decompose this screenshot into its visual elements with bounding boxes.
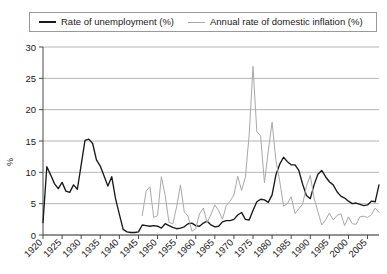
unemployment-inflation-chart: Rate of unemployment (%) Annual rate of …	[0, 0, 387, 274]
legend-label-inflation: Annual rate of domestic inflation (%)	[210, 17, 363, 27]
x-tick-label: 1995	[308, 237, 331, 260]
x-tick-label: 1975	[232, 237, 255, 260]
x-tick-label: 1935	[79, 237, 102, 260]
series-line-unemployment	[43, 139, 379, 232]
y-tick-label: 5	[31, 198, 36, 209]
x-tick-label: 2005	[346, 237, 369, 260]
x-tick-label: 1925	[41, 237, 64, 260]
gridlines	[43, 47, 379, 235]
x-tick-label: 1955	[155, 237, 178, 260]
chart-legend: Rate of unemployment (%) Annual rate of …	[29, 12, 377, 32]
x-tick-label: 1985	[270, 237, 293, 260]
x-axis-ticks: 1920192519301935194019451950195519601965…	[22, 235, 379, 259]
x-tick-label: 1940	[98, 237, 121, 260]
x-tick-label: 1920	[22, 237, 45, 260]
x-tick-label: 1980	[251, 237, 274, 260]
x-tick-label: 1970	[213, 237, 236, 260]
legend-item-inflation: Annual rate of domestic inflation (%)	[188, 17, 363, 27]
data-series	[43, 66, 379, 232]
y-tick-label: 15	[25, 136, 36, 147]
plot-area: % 051015202530 1920192519301935194019451…	[0, 36, 387, 274]
x-tick-label: 1990	[289, 237, 312, 260]
legend-item-unemployment: Rate of unemployment (%)	[39, 17, 174, 27]
legend-label-unemployment: Rate of unemployment (%)	[61, 17, 174, 27]
y-tick-label: 10	[25, 167, 36, 178]
x-tick-label: 1930	[60, 237, 83, 260]
y-tick-label: 25	[25, 73, 36, 84]
y-tick-label: 20	[25, 104, 36, 115]
legend-swatch-unemployment-icon	[39, 21, 56, 23]
x-tick-label: 1965	[194, 237, 217, 260]
x-tick-label: 1960	[174, 237, 197, 260]
y-tick-label: 30	[25, 42, 36, 53]
series-line-inflation	[142, 66, 379, 231]
x-tick-label: 1945	[117, 237, 140, 260]
x-tick-label: 1950	[136, 237, 159, 260]
legend-swatch-inflation-icon	[188, 22, 205, 23]
x-tick-label: 2000	[327, 237, 350, 260]
plot-svg: 051015202530 192019251930193519401945195…	[0, 36, 387, 274]
y-axis-ticks: 051015202530	[25, 42, 43, 241]
